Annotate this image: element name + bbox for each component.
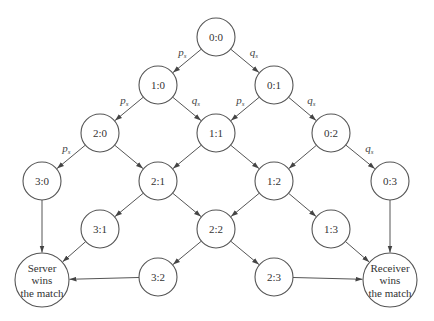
state-node-3-1: 3:1 [81, 210, 119, 248]
nodes-layer: 0:01:00:12:01:10:23:02:11:20:33:12:21:33… [15, 18, 417, 307]
state-node-0-3: 0:3 [371, 162, 409, 200]
edge-2:2-to-3:2 [173, 241, 201, 264]
state-node-0-0: 0:0 [197, 18, 235, 56]
state-node-label: 0:1 [267, 79, 281, 91]
state-node-label: 3:1 [93, 223, 107, 235]
state-node-label: 2:0 [93, 127, 108, 139]
state-node-label: 2:2 [209, 223, 223, 235]
state-node-label: 2:1 [151, 175, 165, 187]
edge-probability-label: ps [119, 94, 129, 108]
edge-probability-label: ps [177, 46, 187, 60]
edge-1:1-to-2:1 [173, 145, 201, 168]
edge-probability-label: qs [192, 94, 201, 108]
edge-1:2-to-1:3 [289, 193, 317, 216]
state-node-0-1: 0:1 [255, 66, 293, 104]
state-node-3-0: 3:0 [23, 162, 61, 200]
edge-1:3-to-receiver-wins [345, 241, 369, 262]
state-node-label: 1:1 [209, 127, 223, 139]
diagram-canvas: psqspsqspsqspsqs 0:01:00:12:01:10:23:02:… [0, 0, 434, 321]
state-node-2-2: 2:2 [197, 210, 235, 248]
edge-1:1-to-1:2 [231, 145, 259, 168]
edge-2:1-to-2:2 [173, 193, 201, 216]
state-node-1-0: 1:0 [139, 66, 177, 104]
edge-probability-label: qs [307, 94, 316, 108]
state-node-label: 2:3 [267, 271, 282, 283]
edge-0:2-to-1:2 [289, 145, 317, 168]
edge-probability-label: qs [250, 46, 259, 60]
match-state-diagram: psqspsqspsqspsqs 0:01:00:12:01:10:23:02:… [0, 0, 434, 321]
edge-probability-label: ps [235, 94, 245, 108]
state-node-label: 0:3 [383, 175, 398, 187]
state-node-server-wins: Serverwinsthe match [15, 253, 69, 307]
state-node-1-1: 1:1 [197, 114, 235, 152]
edge-2:2-to-2:3 [231, 241, 259, 264]
state-node-1-3: 1:3 [312, 210, 350, 248]
state-node-label: 3:2 [151, 271, 165, 283]
edge-3:2-to-server-wins [69, 277, 139, 279]
state-node-label: 1:0 [151, 79, 166, 91]
state-node-label: 0:0 [209, 31, 224, 43]
state-node-3-2: 3:2 [139, 258, 177, 296]
state-node-label: 1:3 [324, 223, 339, 235]
state-node-receiver-wins: Receiverwinsthe match [363, 253, 417, 307]
state-node-2-0: 2:0 [81, 114, 119, 152]
edge-3:1-to-server-wins [63, 242, 86, 262]
state-node-2-1: 2:1 [139, 162, 177, 200]
edge-2:3-to-receiver-wins [293, 277, 363, 279]
state-node-1-2: 1:2 [255, 162, 293, 200]
edge-2:0-to-2:1 [115, 145, 143, 168]
state-node-0-2: 0:2 [312, 114, 350, 152]
state-node-label: 0:2 [324, 127, 338, 139]
state-node-2-3: 2:3 [255, 258, 293, 296]
state-node-label: 1:2 [267, 175, 281, 187]
edge-probability-label: ps [61, 142, 70, 156]
edge-1:2-to-2:2 [231, 193, 259, 216]
edge-2:1-to-3:1 [115, 193, 143, 216]
state-node-label: 3:0 [35, 175, 50, 187]
edge-probability-label: qs [365, 142, 374, 156]
